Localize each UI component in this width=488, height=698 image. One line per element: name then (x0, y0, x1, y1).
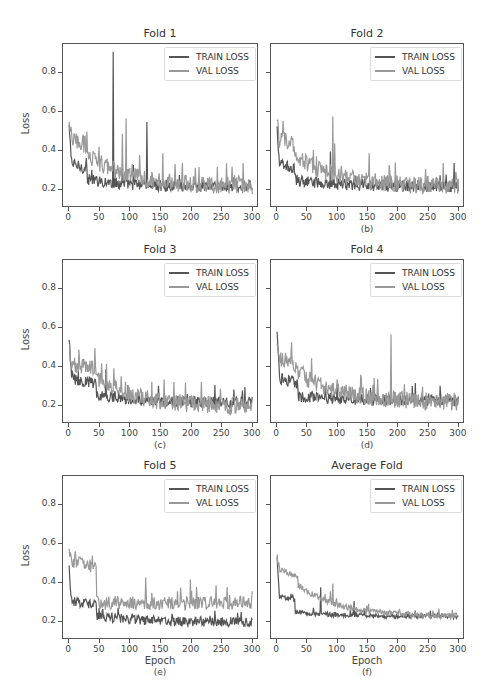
x-tick-mark (129, 423, 130, 427)
legend-item-train: TRAIN LOSS (375, 482, 457, 496)
x-tick-label: 0 (56, 644, 80, 654)
legend-item-val: VAL LOSS (169, 64, 251, 78)
x-tick-mark (221, 207, 222, 211)
y-tick-label: 0.2 (30, 615, 56, 625)
x-tick-mark (221, 639, 222, 643)
x-tick-label: 100 (325, 428, 349, 438)
y-tick-mark (58, 366, 62, 367)
legend-label: VAL LOSS (196, 66, 239, 76)
legend-item-val: VAL LOSS (375, 280, 457, 294)
x-tick-mark (191, 639, 192, 643)
panel-title: Fold 1 (62, 27, 258, 40)
x-tick-label: 300 (240, 212, 264, 222)
y-tick-mark (266, 327, 270, 328)
y-tick-mark (266, 72, 270, 73)
legend-label: VAL LOSS (402, 498, 445, 508)
y-tick-mark (266, 582, 270, 583)
x-tick-label: 200 (385, 644, 409, 654)
val-line-swatch (169, 502, 189, 504)
x-tick-label: 100 (325, 212, 349, 222)
x-tick-label: 150 (148, 644, 172, 654)
x-tick-mark (428, 207, 429, 211)
y-tick-label: 0.2 (30, 399, 56, 409)
y-tick-mark (58, 621, 62, 622)
x-tick-mark (276, 207, 277, 211)
x-tick-label: 250 (416, 644, 440, 654)
subfigure-label: (a) (145, 224, 175, 234)
x-tick-label: 100 (325, 644, 349, 654)
train-line-swatch (169, 272, 189, 274)
x-tick-mark (458, 207, 459, 211)
x-tick-mark (129, 639, 130, 643)
x-tick-label: 150 (148, 428, 172, 438)
x-tick-mark (306, 639, 307, 643)
y-tick-label: 0.6 (30, 105, 56, 115)
x-tick-label: 50 (87, 644, 111, 654)
x-tick-label: 300 (240, 428, 264, 438)
y-tick-mark (58, 150, 62, 151)
x-tick-label: 100 (117, 212, 141, 222)
x-tick-label: 300 (446, 212, 470, 222)
x-tick-label: 50 (87, 212, 111, 222)
x-tick-mark (99, 639, 100, 643)
x-tick-mark (458, 423, 459, 427)
y-tick-mark (266, 288, 270, 289)
y-tick-mark (58, 504, 62, 505)
legend: TRAIN LOSSVAL LOSS (164, 479, 256, 513)
x-tick-label: 300 (446, 428, 470, 438)
y-tick-mark (58, 111, 62, 112)
train-line-swatch (169, 488, 189, 490)
legend: TRAIN LOSSVAL LOSS (370, 479, 462, 513)
legend-item-train: TRAIN LOSS (169, 50, 251, 64)
x-tick-mark (367, 639, 368, 643)
x-tick-mark (191, 423, 192, 427)
val-line-swatch (375, 286, 395, 288)
y-tick-mark (58, 543, 62, 544)
x-tick-label: 250 (416, 212, 440, 222)
val-loss-line (69, 345, 252, 414)
x-tick-label: 50 (294, 212, 318, 222)
val-loss-line (277, 554, 458, 618)
subfigure-label: (d) (352, 440, 382, 450)
y-tick-label: 0.6 (30, 537, 56, 547)
legend-label: TRAIN LOSS (196, 268, 249, 278)
x-tick-label: 200 (385, 212, 409, 222)
legend-item-train: TRAIN LOSS (169, 266, 251, 280)
x-tick-label: 150 (355, 644, 379, 654)
val-line-swatch (169, 70, 189, 72)
x-tick-label: 0 (264, 212, 288, 222)
train-line-swatch (375, 488, 395, 490)
x-tick-label: 200 (385, 428, 409, 438)
y-tick-mark (58, 288, 62, 289)
x-tick-label: 50 (294, 644, 318, 654)
x-tick-mark (191, 207, 192, 211)
panel-title: Fold 4 (270, 243, 464, 256)
x-tick-mark (68, 423, 69, 427)
y-tick-label: 0.4 (30, 360, 56, 370)
legend-item-train: TRAIN LOSS (375, 50, 457, 64)
x-tick-mark (337, 639, 338, 643)
legend: TRAIN LOSSVAL LOSS (370, 263, 462, 297)
x-tick-mark (367, 423, 368, 427)
y-tick-mark (266, 150, 270, 151)
x-tick-label: 0 (56, 212, 80, 222)
x-tick-label: 250 (416, 428, 440, 438)
legend: TRAIN LOSSVAL LOSS (164, 263, 256, 297)
panel-title: Fold 5 (62, 459, 258, 472)
train-line-swatch (375, 272, 395, 274)
legend-item-val: VAL LOSS (169, 280, 251, 294)
legend-label: TRAIN LOSS (196, 484, 249, 494)
x-tick-mark (397, 207, 398, 211)
y-tick-label: 0.2 (30, 183, 56, 193)
x-tick-mark (221, 423, 222, 427)
subfigure-label: (e) (145, 667, 175, 677)
x-tick-mark (99, 423, 100, 427)
y-tick-mark (266, 189, 270, 190)
x-tick-mark (428, 639, 429, 643)
y-axis-label: Loss (20, 325, 31, 355)
y-tick-label: 0.8 (30, 66, 56, 76)
x-tick-label: 300 (446, 644, 470, 654)
x-tick-mark (367, 207, 368, 211)
y-tick-mark (266, 543, 270, 544)
panel-title: Fold 3 (62, 243, 258, 256)
